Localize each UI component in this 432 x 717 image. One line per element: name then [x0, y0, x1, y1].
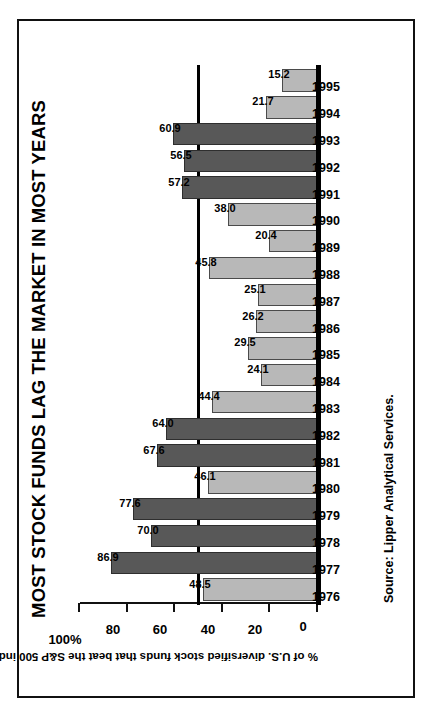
x-label-slot: 1984	[324, 361, 378, 388]
bar-slot: 44.4	[80, 388, 318, 415]
bar-value-label: 29.5	[234, 336, 255, 348]
bar-value-label: 60.9	[159, 122, 180, 134]
bar-value-label: 38.0	[214, 202, 235, 214]
x-label-slot: 1991	[324, 174, 378, 201]
y-tick: 80	[126, 603, 128, 612]
bar[interactable]: 64.0	[166, 417, 318, 440]
x-tick-label: 1982	[312, 428, 340, 442]
x-tick-label: 1992	[312, 160, 340, 174]
x-tick-label: 1990	[312, 214, 340, 228]
bar-slot: 29.5	[80, 335, 318, 362]
x-tick-label: 1981	[312, 455, 340, 469]
x-tick-label: 1988	[312, 268, 340, 282]
bar[interactable]: 29.5	[248, 337, 318, 360]
bar-value-label: 67.6	[143, 443, 164, 455]
x-tick-label: 1985	[312, 348, 340, 362]
bar-slot: 77.6	[80, 495, 318, 522]
bar-value-label: 21.7	[253, 95, 274, 107]
chart-stage: MOST STOCK FUNDS LAG THE MARKET IN MOST …	[24, 29, 408, 689]
x-tick-label: 1979	[312, 509, 340, 523]
bar-value-label: 70.0	[138, 524, 159, 536]
bar-value-label: 77.6	[120, 497, 141, 509]
x-tick-label: 1980	[312, 482, 340, 496]
bar-slot: 26.2	[80, 308, 318, 335]
x-label-slot: 1982	[324, 415, 378, 442]
bar-value-label: 25.1	[245, 282, 266, 294]
source-label: Source:	[382, 556, 396, 603]
x-tick-label: 1978	[312, 536, 340, 550]
bar-value-label: 44.4	[199, 390, 220, 402]
y-tick: 20	[268, 603, 270, 612]
bar-value-label: 56.5	[170, 148, 191, 160]
bar[interactable]: 70.0	[151, 524, 318, 547]
bar-slot: 25.1	[80, 281, 318, 308]
x-tick-label: 1991	[312, 187, 340, 201]
x-label-slot: 1986	[324, 308, 378, 335]
x-tick-label: 1984	[312, 375, 340, 389]
bar[interactable]: 57.2	[182, 176, 318, 199]
bar[interactable]: 56.5	[184, 149, 318, 172]
bar-slot: 15.2	[80, 67, 318, 94]
bar[interactable]: 60.9	[173, 122, 318, 145]
x-label-slot: 1990	[324, 201, 378, 228]
y-tick-label: 20	[248, 622, 262, 637]
bar[interactable]: 67.6	[157, 444, 318, 467]
x-label-slot: 1988	[324, 254, 378, 281]
bar[interactable]: 46.1	[208, 471, 318, 494]
x-tick-label: 1989	[312, 241, 340, 255]
bar[interactable]: 45.8	[209, 256, 318, 279]
y-tick-label: 0	[299, 619, 306, 634]
bar[interactable]: 86.9	[111, 551, 318, 574]
x-label-slot: 1985	[324, 335, 378, 362]
bar-slot: 38.0	[80, 201, 318, 228]
bar-slot: 67.6	[80, 442, 318, 469]
chart-page: MOST STOCK FUNDS LAG THE MARKET IN MOST …	[0, 0, 432, 717]
y-tick: 60	[173, 603, 175, 612]
bar-slot: 48.5	[80, 576, 318, 603]
x-axis-labels: 1976197719781979198019811982198319841985…	[324, 67, 378, 603]
page-title: MOST STOCK FUNDS LAG THE MARKET IN MOST …	[28, 29, 50, 689]
x-label-slot: 1980	[324, 469, 378, 496]
x-label-slot: 1989	[324, 227, 378, 254]
source-text: Lipper Analytical Services.	[382, 394, 396, 556]
bar-slot: 86.9	[80, 549, 318, 576]
x-tick-label: 1995	[312, 80, 340, 94]
bar[interactable]: 20.4	[269, 230, 318, 253]
x-tick-label: 1977	[312, 562, 340, 576]
x-tick-label: 1986	[312, 321, 340, 335]
bar-slot: 46.1	[80, 469, 318, 496]
bar[interactable]: 24.1	[261, 363, 318, 386]
bar-value-label: 48.5	[189, 577, 210, 589]
x-tick-label: 1994	[312, 107, 340, 121]
bar[interactable]: 25.1	[258, 283, 318, 306]
bar-slot: 57.2	[80, 174, 318, 201]
bar-value-label: 57.2	[168, 175, 189, 187]
bar-slot: 21.7	[80, 93, 318, 120]
x-label-slot: 1981	[324, 442, 378, 469]
y-tick-label: 40	[201, 622, 215, 637]
bar[interactable]: 38.0	[228, 203, 318, 226]
y-axis-title: % of U.S. diversified stock funds that b…	[80, 651, 318, 663]
bar[interactable]: 77.6	[133, 497, 318, 520]
bar[interactable]: 44.4	[212, 390, 318, 413]
bar[interactable]: 21.7	[266, 96, 318, 119]
x-label-slot: 1976	[324, 576, 378, 603]
x-tick-label: 1976	[312, 589, 340, 603]
bar-slot: 70.0	[80, 522, 318, 549]
bar[interactable]: 26.2	[256, 310, 318, 333]
bar-slot: 45.8	[80, 254, 318, 281]
bar-value-label: 45.8	[195, 256, 216, 268]
y-tick: 40	[221, 603, 223, 612]
bar-value-label: 64.0	[152, 416, 173, 428]
x-label-slot: 1993	[324, 120, 378, 147]
bar[interactable]: 48.5	[203, 578, 318, 601]
bar-value-label: 24.1	[247, 363, 268, 375]
plot-area: 100%806040200 48.586.970.077.646.167.664…	[80, 67, 318, 603]
y-tick: 100%	[78, 603, 80, 612]
bar-slot: 60.9	[80, 120, 318, 147]
y-tick-label: 60	[153, 622, 167, 637]
x-label-slot: 1995	[324, 67, 378, 94]
bar-value-label: 46.1	[195, 470, 216, 482]
chart-frame: MOST STOCK FUNDS LAG THE MARKET IN MOST …	[17, 19, 415, 698]
y-tick-label: 80	[105, 622, 119, 637]
